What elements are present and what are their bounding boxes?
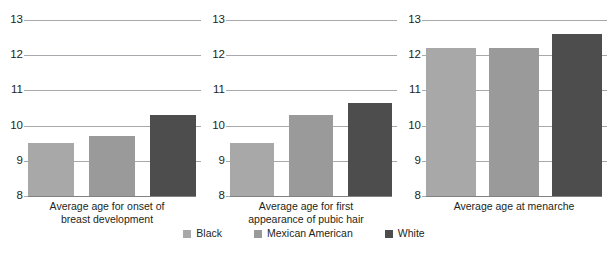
y-axis-tick-mark-right: [196, 126, 201, 127]
y-axis-tick-mark-right: [392, 126, 397, 127]
legend-swatch-icon: [254, 230, 262, 238]
legend-label: Black: [196, 228, 222, 239]
gridline: [28, 196, 196, 197]
panel-caption-1: Average age for onset of breast developm…: [14, 200, 200, 225]
bars-panel-2: [230, 20, 392, 196]
legend-swatch-icon: [385, 230, 393, 238]
y-axis-tick-mark: [422, 196, 426, 197]
y-axis-tick-label: 12: [212, 49, 225, 61]
y-axis-tick-label: 8: [415, 190, 421, 202]
y-axis-tick-mark-right: [196, 20, 201, 21]
panel-caption-3: Average age at menarche: [424, 200, 604, 213]
bar-white: [348, 103, 392, 196]
gridline: [426, 196, 602, 197]
chart-panels: 8910111213 Average age for onset of brea…: [0, 0, 608, 222]
y-axis-tick-label: 11: [213, 85, 225, 97]
y-axis-tick-label: 9: [219, 155, 225, 167]
y-axis-tick-mark-right: [196, 55, 201, 56]
bars-panel-3: [426, 20, 602, 196]
bar-mexican-american: [289, 115, 333, 196]
y-axis-tick-mark: [24, 196, 28, 197]
bar-mexican-american: [489, 48, 539, 196]
legend-label: Mexican American: [267, 228, 353, 239]
plot-area-panel-2: 8910111213: [230, 20, 392, 196]
legend-swatch-icon: [183, 230, 191, 238]
bars-panel-1: [28, 20, 196, 196]
legend-label: White: [398, 228, 425, 239]
chart-panel-pubic-hair: 8910111213 Average age for first appeara…: [202, 0, 398, 222]
chart-legend: BlackMexican AmericanWhite: [0, 228, 608, 239]
legend-item-black[interactable]: Black: [183, 228, 222, 239]
panel-caption-2: Average age for first appearance of pubi…: [216, 200, 396, 225]
y-axis-tick-label: 9: [17, 155, 23, 167]
y-axis-tick-label: 13: [10, 14, 23, 26]
panel-caption-2-line2: appearance of pubic hair: [216, 213, 396, 226]
y-axis-tick-mark-right: [196, 161, 201, 162]
bar-mexican-american: [89, 136, 135, 196]
y-axis-tick-label: 13: [212, 14, 225, 26]
legend-item-white[interactable]: White: [385, 228, 425, 239]
bar-white: [552, 34, 602, 196]
y-axis-tick-mark-right: [392, 20, 397, 21]
plot-area-panel-1: 8910111213: [28, 20, 196, 196]
y-axis-tick-label: 10: [408, 120, 421, 132]
panel-caption-2-line1: Average age for first: [216, 200, 396, 213]
y-axis-tick-label: 12: [408, 49, 421, 61]
y-axis-tick-mark-right: [602, 126, 607, 127]
bar-black: [426, 48, 476, 196]
y-axis-tick-mark-right: [196, 90, 201, 91]
y-axis-tick-mark: [226, 196, 230, 197]
gridline: [230, 196, 392, 197]
y-axis-tick-label: 10: [212, 120, 225, 132]
plot-area-panel-3: 8910111213: [426, 20, 602, 196]
y-axis-tick-mark-right: [602, 20, 607, 21]
grouped-bar-chart-figure: 8910111213 Average age for onset of brea…: [0, 0, 608, 257]
bar-white: [150, 115, 196, 196]
bar-black: [230, 143, 274, 196]
y-axis-tick-label: 11: [11, 85, 23, 97]
panel-caption-1-line1: Average age for onset of: [14, 200, 200, 213]
y-axis-tick-mark-right: [602, 55, 607, 56]
bar-black: [28, 143, 74, 196]
y-axis-tick-label: 12: [10, 49, 23, 61]
y-axis-tick-label: 9: [415, 155, 421, 167]
y-axis-tick-label: 11: [409, 85, 421, 97]
y-axis-tick-mark-right: [602, 161, 607, 162]
chart-panel-menarche: 8910111213 Average age at menarche: [398, 0, 608, 222]
y-axis-tick-mark-right: [392, 161, 397, 162]
y-axis-tick-label: 10: [10, 120, 23, 132]
y-axis-tick-label: 13: [408, 14, 421, 26]
y-axis-tick-mark-right: [392, 90, 397, 91]
y-axis-tick-mark-right: [602, 90, 607, 91]
panel-caption-3-line1: Average age at menarche: [424, 200, 604, 213]
panel-caption-1-line2: breast development: [14, 213, 200, 226]
legend-item-mexican-american[interactable]: Mexican American: [254, 228, 353, 239]
chart-panel-breast-development: 8910111213 Average age for onset of brea…: [0, 0, 202, 222]
y-axis-tick-mark-right: [392, 55, 397, 56]
